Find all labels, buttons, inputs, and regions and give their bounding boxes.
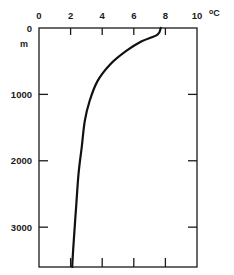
x-tick-label: 8 — [163, 10, 168, 21]
x-tick-label: 6 — [131, 10, 136, 21]
x-tick-label: 2 — [68, 10, 73, 21]
x-axis-unit-label: oC — [209, 8, 220, 18]
y-tick-label: 0 — [27, 23, 32, 34]
x-tick-label: 0 — [36, 10, 41, 21]
temperature-depth-chart: 0246810 0100020003000 oC m — [0, 0, 234, 275]
x-tick-label: 10 — [192, 10, 203, 21]
plot-border — [39, 28, 197, 267]
y-tick-label: 3000 — [11, 222, 32, 233]
temperature-curve — [72, 28, 161, 267]
y-tick-label: 1000 — [11, 89, 32, 100]
x-tick-label: 4 — [100, 10, 106, 21]
plot-frame — [39, 28, 197, 267]
y-axis-unit-label: m — [20, 39, 28, 49]
x-axis-ticks: 0246810 — [36, 10, 202, 267]
y-tick-label: 2000 — [11, 155, 32, 166]
